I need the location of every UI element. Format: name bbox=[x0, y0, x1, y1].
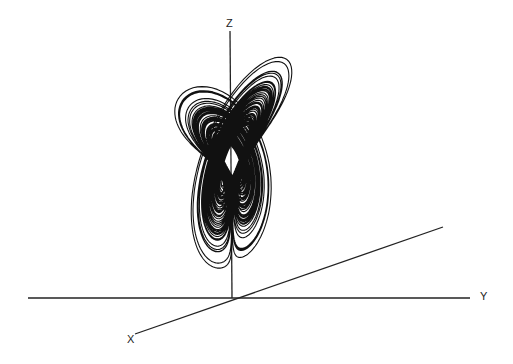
attractor-trajectory bbox=[175, 57, 292, 268]
lorenz-attractor-figure: Z Y X bbox=[0, 0, 513, 364]
x-axis-label: X bbox=[127, 334, 134, 345]
z-axis-label: Z bbox=[226, 18, 233, 29]
attractor-plot bbox=[0, 0, 513, 364]
x-axis-line bbox=[135, 227, 443, 334]
y-axis-label: Y bbox=[480, 291, 487, 302]
